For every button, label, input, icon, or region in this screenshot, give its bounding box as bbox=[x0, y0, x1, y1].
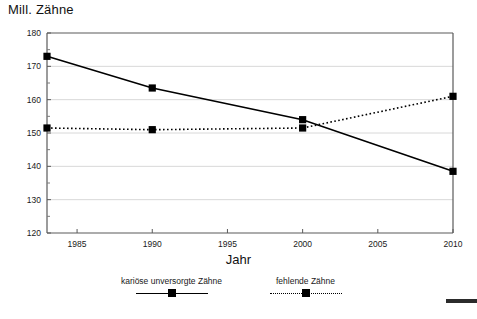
data-point-marker bbox=[43, 53, 50, 60]
x-tick-label: 2010 bbox=[444, 239, 463, 249]
chart-container: Mill. Zähne 120130140150160170180 198519… bbox=[0, 0, 477, 319]
legend-label-karioese: kariöse unversorgte Zähne bbox=[121, 276, 222, 286]
data-point-marker bbox=[149, 126, 156, 133]
gridlines bbox=[47, 66, 453, 199]
x-tick-label: 1995 bbox=[218, 239, 237, 249]
data-point-marker bbox=[299, 124, 306, 131]
legend-sample-karioese bbox=[136, 288, 208, 299]
y-tick-label: 150 bbox=[27, 128, 41, 138]
plot-area: 120130140150160170180 198519901995200020… bbox=[0, 0, 477, 260]
legend-entry-karioese: kariöse unversorgte Zähne bbox=[118, 276, 226, 299]
x-tick-label: 2005 bbox=[368, 239, 387, 249]
legend-marker-square bbox=[168, 289, 176, 297]
scan-artifact bbox=[446, 299, 477, 303]
x-tick-label: 1990 bbox=[143, 239, 162, 249]
x-axis-ticks: 198519901995200020052010 bbox=[68, 229, 463, 249]
data-point-marker bbox=[299, 116, 306, 123]
legend-sample-fehlende bbox=[270, 288, 342, 299]
series-line bbox=[47, 56, 453, 171]
data-series-layer bbox=[43, 53, 456, 175]
x-axis-title: Jahr bbox=[0, 252, 477, 267]
legend-entry-fehlende: fehlende Zähne bbox=[252, 276, 360, 299]
legend-label-fehlende: fehlende Zähne bbox=[276, 276, 335, 286]
y-tick-label: 170 bbox=[27, 61, 41, 71]
x-tick-label: 1985 bbox=[68, 239, 87, 249]
data-point-marker bbox=[449, 93, 456, 100]
y-tick-label: 140 bbox=[27, 161, 41, 171]
chart-legend: kariöse unversorgte Zähne fehlende Zähne bbox=[0, 276, 477, 299]
y-tick-label: 160 bbox=[27, 95, 41, 105]
y-tick-label: 130 bbox=[27, 195, 41, 205]
data-point-marker bbox=[449, 168, 456, 175]
data-point-marker bbox=[149, 84, 156, 91]
y-tick-label: 180 bbox=[27, 28, 41, 38]
x-tick-label: 2000 bbox=[293, 239, 312, 249]
legend-marker-square bbox=[302, 289, 310, 297]
data-point-marker bbox=[43, 124, 50, 131]
y-tick-label: 120 bbox=[27, 228, 41, 238]
series-line bbox=[47, 96, 453, 129]
